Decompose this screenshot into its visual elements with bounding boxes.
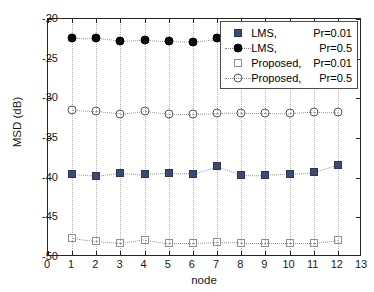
x-tick-label: 0	[44, 259, 50, 270]
data-point-marker	[261, 171, 269, 179]
legend-marker	[225, 26, 251, 39]
y-tick-mark	[356, 217, 360, 218]
data-point-marker	[116, 109, 125, 118]
x-tick-label: 5	[165, 259, 171, 270]
legend-series-name: LMS,	[251, 42, 313, 54]
y-axis-title: MSD (dB)	[11, 77, 23, 167]
data-point-marker	[68, 34, 77, 43]
x-tick-mark	[193, 251, 194, 255]
x-tick-mark	[72, 19, 73, 23]
x-tick-mark	[145, 19, 146, 23]
x-tick-mark	[217, 251, 218, 255]
legend-series-condition: Pr=0.5	[313, 72, 352, 84]
y-tick-label: -35	[42, 132, 58, 143]
data-point-marker	[261, 239, 269, 247]
data-point-marker	[334, 161, 342, 169]
x-tick-label: 13	[355, 259, 367, 270]
y-tick-mark	[356, 138, 360, 139]
x-tick-mark	[120, 251, 121, 255]
data-point-marker	[237, 108, 246, 117]
x-tick-mark	[193, 19, 194, 23]
legend-item[interactable]: Proposed,Pr=0.01	[225, 55, 352, 70]
data-point-marker	[189, 239, 197, 247]
x-tick-label: 3	[116, 259, 122, 270]
legend-series-condition: Pr=0.01	[313, 57, 352, 69]
y-tick-label: -45	[42, 211, 58, 222]
x-tick-mark	[217, 19, 218, 23]
data-point-marker	[68, 106, 77, 115]
data-point-marker	[92, 172, 100, 180]
legend-marker	[225, 56, 251, 69]
gridline-vertical	[193, 19, 194, 255]
legend-item[interactable]: Proposed,Pr=0.5	[225, 70, 352, 85]
data-point-marker	[116, 36, 125, 45]
x-tick-mark	[314, 251, 315, 255]
x-tick-mark	[96, 251, 97, 255]
data-point-marker	[237, 239, 245, 247]
x-tick-label: 12	[331, 259, 343, 270]
x-tick-label: 10	[282, 259, 294, 270]
data-point-marker	[213, 109, 222, 118]
legend-marker	[225, 71, 251, 84]
data-point-marker	[92, 107, 101, 116]
legend-item[interactable]: LMS,Pr=0.01	[225, 25, 352, 40]
data-point-marker	[140, 35, 149, 44]
data-point-marker	[286, 170, 294, 178]
x-tick-mark	[265, 251, 266, 255]
data-point-marker	[213, 162, 221, 170]
data-point-marker	[309, 107, 318, 116]
x-tick-label: 6	[189, 259, 195, 270]
plot-area: LMS,Pr=0.01LMS,Pr=0.5Proposed,Pr=0.01Pro…	[47, 18, 361, 256]
data-point-marker	[188, 109, 197, 118]
x-tick-mark	[169, 19, 170, 23]
data-point-marker	[333, 108, 342, 117]
y-tick-mark	[356, 98, 360, 99]
data-point-marker	[92, 34, 101, 43]
chart-figure: LMS,Pr=0.01LMS,Pr=0.5Proposed,Pr=0.01Pro…	[0, 0, 374, 292]
x-tick-label: 11	[307, 259, 318, 270]
y-tick-mark	[356, 19, 360, 20]
data-point-marker	[286, 239, 294, 247]
gridline-vertical	[169, 19, 170, 255]
legend-series-condition: Pr=0.01	[313, 27, 352, 39]
data-point-marker	[165, 169, 173, 177]
y-tick-label: -20	[42, 13, 58, 24]
legend-series-name: LMS,	[251, 27, 313, 39]
legend-series-name: Proposed,	[251, 72, 313, 84]
data-point-marker	[261, 108, 270, 117]
x-tick-mark	[120, 19, 121, 23]
data-point-marker	[164, 36, 173, 45]
data-point-marker	[237, 171, 245, 179]
data-point-marker	[213, 238, 221, 246]
x-tick-label: 9	[261, 259, 267, 270]
legend-marker	[225, 41, 251, 54]
x-tick-mark	[241, 251, 242, 255]
data-point-marker	[165, 239, 173, 247]
data-point-marker	[189, 170, 197, 178]
data-point-marker	[140, 107, 149, 116]
x-tick-label: 4	[141, 259, 147, 270]
data-point-marker	[310, 168, 318, 176]
data-point-marker	[334, 236, 342, 244]
legend-item[interactable]: LMS,Pr=0.5	[225, 40, 352, 55]
data-point-marker	[188, 37, 197, 46]
x-tick-label: 8	[237, 259, 243, 270]
gridline-vertical	[96, 19, 97, 255]
data-point-marker	[141, 236, 149, 244]
gridline-vertical	[72, 19, 73, 255]
gridline-vertical	[145, 19, 146, 255]
x-tick-mark	[338, 251, 339, 255]
legend-series-name: Proposed,	[251, 57, 313, 69]
legend-marker-glyph	[234, 73, 243, 82]
x-tick-mark	[290, 251, 291, 255]
data-point-marker	[92, 237, 100, 245]
y-tick-label: -25	[42, 52, 58, 63]
data-point-marker	[68, 170, 76, 178]
data-point-marker	[141, 170, 149, 178]
data-point-marker	[116, 239, 124, 247]
gridline-vertical	[217, 19, 218, 255]
legend-marker-glyph	[234, 59, 242, 67]
chart-legend: LMS,Pr=0.01LMS,Pr=0.5Proposed,Pr=0.01Pro…	[220, 21, 358, 89]
y-tick-mark	[356, 178, 360, 179]
data-point-marker	[68, 234, 76, 242]
